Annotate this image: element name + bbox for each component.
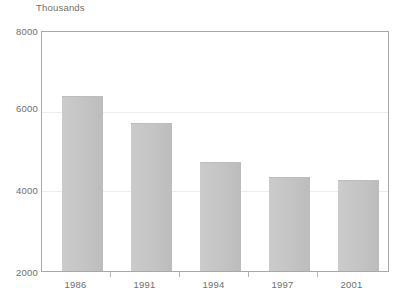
bar-1997[interactable] (269, 177, 310, 271)
x-tick-mark-2 (179, 272, 180, 277)
y-tick-label-4000: 4000 (4, 185, 38, 196)
y-tick-label-8000: 8000 (4, 26, 38, 37)
bar-chart: Thousands 8000 6000 4000 2000 1986 1991 … (0, 0, 402, 300)
x-tick-label-1997: 1997 (248, 279, 317, 290)
x-tick-mark-4 (317, 272, 318, 277)
y-axis-unit-label: Thousands (36, 2, 85, 13)
x-tick-label-1994: 1994 (179, 279, 248, 290)
bar-1986[interactable] (62, 96, 103, 271)
x-tick-label-1986: 1986 (41, 279, 110, 290)
x-tick-mark-1 (110, 272, 111, 277)
bar-1991[interactable] (131, 123, 172, 271)
bar-2001[interactable] (338, 180, 379, 271)
y-tick-label-2000: 2000 (4, 267, 38, 278)
y-tick-label-6000: 6000 (4, 103, 38, 114)
bar-1994[interactable] (200, 162, 241, 271)
x-tick-label-1991: 1991 (110, 279, 179, 290)
plot-area (41, 31, 389, 272)
y-axis-tick-labels: 8000 6000 4000 2000 (0, 0, 38, 300)
bars-layer (42, 32, 388, 271)
x-tick-label-2001: 2001 (317, 279, 386, 290)
x-tick-mark-3 (248, 272, 249, 277)
